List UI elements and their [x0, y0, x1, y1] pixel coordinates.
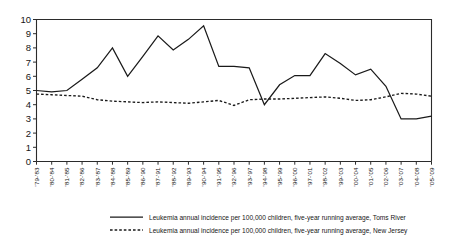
leukemia-incidence-chart: 012345678910 '79-'83'80-'84'81-'85'82-'8… — [0, 0, 456, 246]
x-tick-label: '02-'06 — [382, 167, 389, 186]
series-layer — [37, 26, 432, 119]
x-tick-label: '85-'89 — [124, 167, 131, 186]
chart-legend: Leukemia annual incidence per 100,000 ch… — [110, 214, 408, 235]
y-tick-label: 2 — [26, 128, 31, 139]
x-tick-label: '96-'00 — [291, 167, 298, 186]
x-tick-label: '05-'09 — [428, 167, 435, 186]
x-tick-label: '79-'83 — [33, 167, 40, 186]
y-tick-label: 1 — [26, 142, 31, 153]
x-tick-label: '97-'01 — [306, 167, 313, 186]
x-tick-label: '83-'87 — [94, 167, 101, 186]
y-tick-label: 4 — [26, 99, 31, 110]
x-tick-label: '89-'93 — [185, 167, 192, 186]
x-tick-label: '92-'96 — [230, 167, 237, 186]
x-axis-labels: '79-'83'80-'84'81-'85'82-'86'83-'87'84-'… — [33, 167, 435, 186]
legend-label-toms-river: Leukemia annual incidence per 100,000 ch… — [149, 214, 407, 222]
x-tick-label: '03-'07 — [397, 167, 404, 186]
x-tick-label: '00-'04 — [352, 167, 359, 186]
x-tick-label: '88-'92 — [170, 167, 177, 186]
x-tick-label: '86-'90 — [139, 167, 146, 186]
y-tick-label: 5 — [26, 85, 31, 96]
y-tick-label: 3 — [26, 113, 31, 124]
legend-label-new-jersey: Leukemia annual incidence per 100,000 ch… — [149, 227, 408, 235]
x-tick-label: '04-'08 — [413, 167, 420, 186]
x-tick-label: '87-'91 — [154, 167, 161, 186]
chart-canvas: 012345678910 '79-'83'80-'84'81-'85'82-'8… — [0, 0, 456, 246]
x-tick-label: '93-'97 — [245, 167, 252, 186]
x-tick-label: '01-'05 — [367, 167, 374, 186]
y-tick-label: 6 — [26, 71, 31, 82]
y-tick-label: 9 — [26, 28, 31, 39]
y-tick-label: 7 — [26, 57, 31, 68]
y-tick-label: 10 — [20, 14, 31, 25]
x-tick-label: '95-'99 — [276, 167, 283, 186]
y-tick-label: 8 — [26, 42, 31, 53]
plot-frame — [37, 20, 432, 162]
x-tick-label: '99-'03 — [337, 167, 344, 186]
x-tick-label: '94-'98 — [261, 167, 268, 186]
series-line-new-jersey — [37, 93, 432, 105]
y-axis-ticks: 012345678910 — [20, 14, 36, 167]
x-tick-label: '82-'86 — [78, 167, 85, 186]
x-tick-label: '84-'88 — [109, 167, 116, 186]
x-tick-label: '81-'85 — [63, 167, 70, 186]
y-tick-label: 0 — [26, 156, 31, 167]
x-tick-label: '98-'02 — [321, 167, 328, 186]
x-tick-label: '80-'84 — [48, 167, 55, 186]
x-tick-label: '90-'94 — [200, 167, 207, 186]
x-tick-label: '91-'95 — [215, 167, 222, 186]
